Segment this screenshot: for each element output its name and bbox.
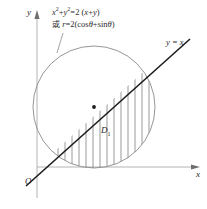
region-label: D1 [101, 126, 111, 135]
center-point [92, 105, 96, 109]
figure-canvas: x2+y2=2 (x+y) 或 r=2(cosθ+sinθ) y x O y =… [0, 0, 207, 209]
y-axis-label: y [27, 8, 31, 17]
origin-label: O [25, 177, 32, 186]
y-axis-arrow [34, 10, 39, 19]
equation-annotation: x2+y2=2 (x+y) 或 r=2(cosθ+sinθ) [52, 6, 115, 31]
equation-or-label: 或 [52, 20, 60, 29]
region-hatching [44, 20, 149, 200]
region-label-subscript: 1 [108, 131, 111, 137]
line-label: y = x [166, 38, 184, 47]
equation-cartesian: x2+y2=2 (x+y) [52, 6, 115, 18]
x-axis-label: x [196, 170, 200, 179]
equation-polar: 或 r=2(cosθ+sinθ) [52, 18, 115, 31]
leader-line [57, 33, 63, 53]
line-y-equals-x [26, 39, 190, 186]
